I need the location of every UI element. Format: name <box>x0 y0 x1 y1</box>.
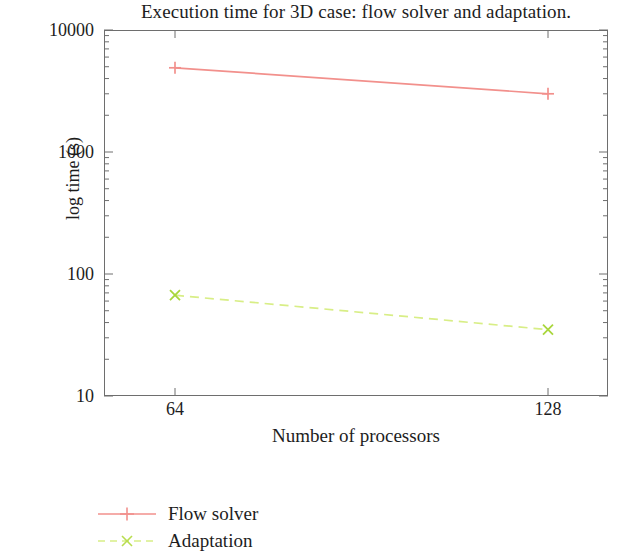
data-point-flow-solver <box>542 88 554 100</box>
chart-legend: Flow solver Adaptation <box>96 500 426 554</box>
legend-item-adaptation: Adaptation <box>96 527 426 554</box>
plot-canvas <box>0 0 622 555</box>
series-line-flow-solver <box>175 68 548 94</box>
legend-key-flow-solver <box>96 505 158 523</box>
legend-label-flow-solver: Flow solver <box>168 503 258 525</box>
series-line-adaptation <box>175 295 548 329</box>
legend-item-flow-solver: Flow solver <box>96 500 426 527</box>
legend-label-adaptation: Adaptation <box>168 530 252 552</box>
axis-ticks <box>104 30 608 396</box>
data-point-adaptation <box>543 325 553 335</box>
legend-key-adaptation <box>96 532 158 550</box>
chart-figure: Execution time for 3D case: flow solver … <box>0 0 622 555</box>
data-series-group <box>169 62 554 335</box>
data-point-flow-solver <box>169 62 181 74</box>
